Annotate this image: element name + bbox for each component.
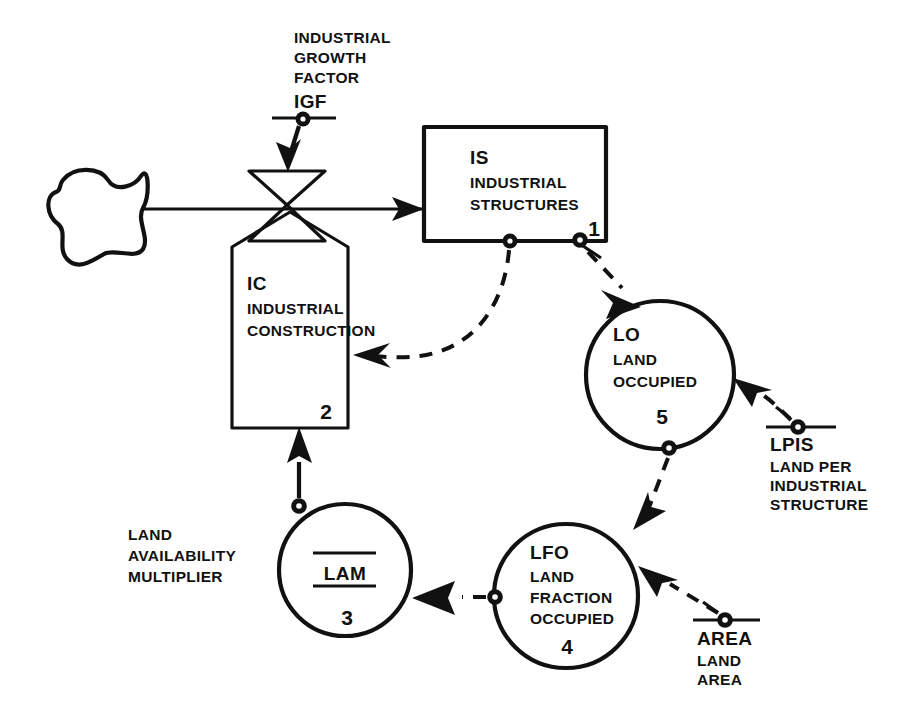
arrow-igf-to-valve <box>276 126 301 172</box>
igf-label-line-1: GROWTH <box>294 49 366 66</box>
area-label-group: AREA LAND AREA <box>697 628 752 688</box>
lfo-label-line-2: OCCUPIED <box>530 610 614 627</box>
lpis-abbrev: LPIS <box>770 434 814 455</box>
lam-equation-number: 3 <box>341 606 353 629</box>
source-cloud-shape <box>48 170 147 265</box>
is-label-line-0: INDUSTRIAL <box>470 174 567 191</box>
lam-external-label-line-0: LAND <box>128 526 172 543</box>
igf-abbrev: IGF <box>294 91 327 112</box>
lpis-label-line-1: INDUSTRIAL <box>770 477 867 494</box>
ic-label-line-1: CONSTRUCTION <box>247 322 375 339</box>
lam-auxiliary-circle: LAM 3 <box>279 504 411 636</box>
igf-label-line-2: FACTOR <box>294 69 359 86</box>
diagram-canvas-root: INDUSTRIAL GROWTH FACTOR IGF IC INDUSTRI… <box>0 0 914 719</box>
is-label-line-1: STRUCTURES <box>470 196 579 213</box>
is-abbrev: IS <box>470 147 489 168</box>
lo-label-line-1: OCCUPIED <box>613 373 697 390</box>
lfo-abbrev: LFO <box>530 542 569 563</box>
ic-label-line-0: INDUSTRIAL <box>247 300 344 317</box>
lfo-auxiliary-circle: LFO LAND FRACTION OCCUPIED 4 <box>494 524 638 668</box>
lo-label-line-0: LAND <box>613 351 657 368</box>
lo-abbrev: LO <box>613 324 640 345</box>
link-is-to-ic <box>353 234 518 369</box>
ic-abbrev: IC <box>247 273 267 294</box>
lfo-equation-number: 4 <box>561 635 573 658</box>
lo-auxiliary-circle: LO LAND OCCUPIED 5 <box>586 301 734 449</box>
lpis-label-line-2: STRUCTURE <box>770 496 868 513</box>
area-label-line-0: LAND <box>697 652 741 669</box>
lo-equation-number: 5 <box>656 405 668 428</box>
is-equation-number: 1 <box>588 217 600 240</box>
igf-constant-marker <box>272 112 336 127</box>
igf-label-line-0: INDUSTRIAL <box>294 29 391 46</box>
ic-rate-box: IC INDUSTRIAL CONSTRUCTION 2 <box>232 212 375 428</box>
area-label-line-1: AREA <box>697 671 742 688</box>
lam-abbrev: LAM <box>324 563 366 584</box>
ic-equation-number: 2 <box>320 400 332 423</box>
lpis-constant-marker <box>766 407 836 435</box>
lpis-label-line-0: LAND PER <box>770 458 852 475</box>
is-level-box: IS INDUSTRIAL STRUCTURES 1 <box>424 127 606 241</box>
lpis-label-group: LPIS LAND PER INDUSTRIAL STRUCTURE <box>770 434 868 513</box>
link-lam-to-ic <box>287 427 312 514</box>
lfo-label-line-1: FRACTION <box>530 589 612 606</box>
link-lfo-to-lam <box>412 581 503 615</box>
area-abbrev: AREA <box>697 628 752 649</box>
area-constant-marker <box>693 602 760 628</box>
lfo-label-line-0: LAND <box>530 568 574 585</box>
lam-external-label-line-2: MULTIPLIER <box>128 568 223 585</box>
igf-label-group: INDUSTRIAL GROWTH FACTOR IGF <box>294 29 391 112</box>
link-lo-to-lfo <box>633 440 677 530</box>
system-dynamics-diagram: INDUSTRIAL GROWTH FACTOR IGF IC INDUSTRI… <box>0 0 914 719</box>
lam-external-label-group: LAND AVAILABILITY MULTIPLIER <box>128 526 236 585</box>
lam-external-label-line-1: AVAILABILITY <box>128 547 236 564</box>
link-lpis-to-lo <box>733 378 791 420</box>
